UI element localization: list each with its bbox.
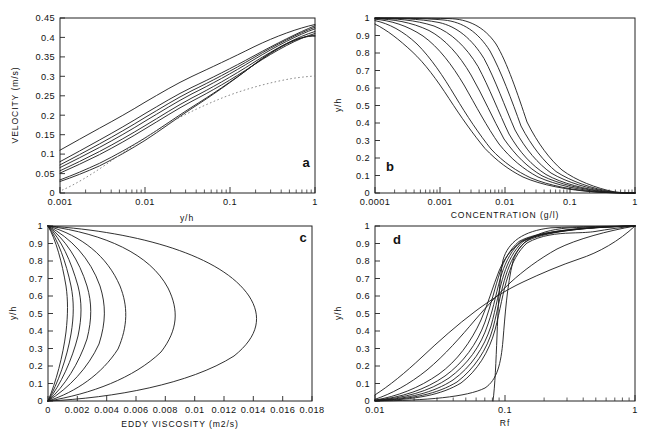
panel-d-letter: d (393, 232, 401, 247)
ytick-label: 0.35 (36, 52, 55, 62)
panel-a-y-ticklabels: 0 0.05 0.1 0.15 0.2 0.25 0.3 0.35 0.4 0.… (36, 13, 55, 198)
panel-c-curves (48, 226, 257, 401)
xtick-label: 0.006 (124, 405, 149, 415)
ytick-label: 0.8 (29, 256, 43, 266)
panel-b: 0 0.1 0.2 0.3 0.4 0.5 0.6 0.7 0.8 0.9 1 (327, 0, 653, 232)
ytick-label: 0.7 (356, 274, 370, 284)
ytick-label: 0.3 (41, 72, 55, 82)
xtick-label: 0.001 (428, 197, 453, 207)
ytick-label: 0.45 (36, 13, 55, 23)
ytick-label: 0 (37, 396, 43, 406)
ytick-label: 0.1 (29, 379, 43, 389)
ytick-label: 0.6 (29, 291, 43, 301)
panel-a-curves (60, 25, 315, 191)
panel-d-x-ticklabels: 0.01 0.1 1 (365, 405, 638, 415)
panel-c-letter: c (299, 230, 306, 245)
ytick-label: 0.8 (356, 48, 370, 58)
panel-d: 0 0.1 0.2 0.3 0.4 0.5 0.6 0.7 0.8 0.9 1 (327, 216, 653, 447)
xtick-label: 0.012 (212, 405, 237, 415)
panel-c-ylabel: y/h (8, 306, 18, 320)
panel-c-axes (48, 226, 312, 401)
panel-d-curves (375, 226, 635, 401)
ytick-label: 0.2 (29, 361, 43, 371)
panel-d-y-ticks (375, 226, 380, 401)
panel-c-y-ticklabels: 0 0.1 0.2 0.3 0.4 0.5 0.6 0.7 0.8 0.9 1 (29, 221, 43, 406)
ytick-label: 0.1 (356, 379, 370, 389)
ytick-label: 1 (364, 13, 370, 23)
xtick-label: 0.004 (94, 405, 119, 415)
panel-b-letter: b (386, 159, 394, 174)
ytick-label: 0.7 (356, 66, 370, 76)
ytick-label: 0.4 (356, 326, 370, 336)
xtick-label: 0.1 (498, 405, 512, 415)
xtick-label: 0.01 (185, 405, 204, 415)
figure-container: 0 0.05 0.1 0.15 0.2 0.25 0.3 0.35 0.4 0.… (0, 0, 653, 447)
panel-c-y-ticks (48, 226, 53, 401)
panel-b-svg: 0 0.1 0.2 0.3 0.4 0.5 0.6 0.7 0.8 0.9 1 (327, 0, 653, 232)
panel-b-y-ticklabels: 0 0.1 0.2 0.3 0.4 0.5 0.6 0.7 0.8 0.9 1 (356, 13, 370, 198)
panel-c-x-ticklabels: 0 0.002 0.004 0.006 0.008 0.01 0.012 0.0… (45, 405, 324, 415)
xtick-label: 1 (632, 197, 638, 207)
ytick-label: 0.5 (29, 309, 43, 319)
ytick-label: 0.6 (356, 83, 370, 93)
xtick-label: 0.001 (48, 197, 73, 207)
ytick-label: 0.4 (41, 33, 55, 43)
ytick-label: 1 (364, 221, 370, 231)
xtick-label: 0.0001 (360, 197, 391, 207)
ytick-label: 0.9 (356, 31, 370, 41)
ytick-label: 0.1 (356, 171, 370, 181)
panel-a: 0 0.05 0.1 0.15 0.2 0.25 0.3 0.35 0.4 0.… (0, 0, 330, 232)
panel-a-ylabel: VELOCITY (m/s) (10, 67, 20, 144)
panel-d-y-ticklabels: 0 0.1 0.2 0.3 0.4 0.5 0.6 0.7 0.8 0.9 1 (356, 221, 370, 406)
panel-d-xlabel: Rf (500, 418, 510, 428)
ytick-label: 0.9 (29, 239, 43, 249)
ytick-label: 1 (37, 221, 43, 231)
panel-b-ylabel: y/h (333, 98, 343, 112)
ytick-label: 0.4 (356, 118, 370, 128)
ytick-label: 0.5 (356, 101, 370, 111)
panel-b-x-ticklabels: 0.0001 0.001 0.01 0.1 1 (360, 197, 638, 207)
xtick-label: 1 (632, 405, 638, 415)
ytick-label: 0.1 (41, 149, 55, 159)
panel-b-y-ticks (375, 18, 380, 193)
ytick-label: 0.8 (356, 256, 370, 266)
xtick-label: 0.016 (270, 405, 295, 415)
panel-a-letter: a (302, 155, 310, 170)
ytick-label: 0.2 (356, 361, 370, 371)
panel-d-ylabel: y/h (333, 306, 343, 320)
xtick-label: 0.008 (153, 405, 178, 415)
panel-a-x-ticks (60, 187, 315, 193)
panel-c: 0 0.1 0.2 0.3 0.4 0.5 0.6 0.7 0.8 0.9 1 (0, 216, 330, 447)
ytick-label: 0.3 (356, 136, 370, 146)
xtick-label: 0.014 (241, 405, 266, 415)
ytick-label: 0.25 (36, 91, 55, 101)
xtick-label: 1 (312, 197, 318, 207)
panel-c-svg: 0 0.1 0.2 0.3 0.4 0.5 0.6 0.7 0.8 0.9 1 (0, 216, 330, 447)
ytick-label: 0.15 (36, 130, 55, 140)
ytick-label: 0.2 (356, 153, 370, 163)
ytick-label: 0.9 (356, 239, 370, 249)
xtick-label: 0 (45, 405, 51, 415)
panel-a-svg: 0 0.05 0.1 0.15 0.2 0.25 0.3 0.35 0.4 0.… (0, 0, 330, 232)
xtick-label: 0.002 (65, 405, 90, 415)
panel-a-x-ticklabels: 0.001 0.01 0.1 1 (48, 197, 318, 207)
ytick-label: 0.05 (36, 169, 55, 179)
xtick-label: 0.01 (135, 197, 154, 207)
xtick-label: 0.1 (563, 197, 577, 207)
ytick-label: 0.3 (29, 344, 43, 354)
xtick-label: 0.01 (365, 405, 384, 415)
ytick-label: 0.5 (356, 309, 370, 319)
ytick-label: 0.4 (29, 326, 43, 336)
ytick-label: 0.7 (29, 274, 43, 284)
xtick-label: 0.018 (300, 405, 325, 415)
panel-c-x-ticks (48, 396, 312, 401)
panel-b-curves (375, 18, 635, 193)
xtick-label: 0.01 (495, 197, 514, 207)
panel-d-svg: 0 0.1 0.2 0.3 0.4 0.5 0.6 0.7 0.8 0.9 1 (327, 216, 653, 447)
xtick-label: 0.1 (223, 197, 237, 207)
ytick-label: 0.6 (356, 291, 370, 301)
panel-c-xlabel: EDDY VISCOSITY (m2/s) (121, 419, 238, 429)
ytick-label: 0.2 (41, 111, 55, 121)
ytick-label: 0.3 (356, 344, 370, 354)
